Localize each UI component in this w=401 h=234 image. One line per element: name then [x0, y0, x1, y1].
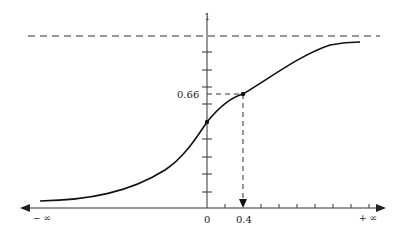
y-top-label: 1 [204, 11, 210, 22]
y-marked-label: 0.66 [177, 89, 199, 100]
sigmoid-diagram: 1 0.66 0 0.4 − ∞ + ∞ [0, 0, 401, 234]
point-origin-0.5 [205, 120, 209, 124]
down-arrow-icon [239, 199, 247, 208]
x-marked-label: 0.4 [236, 214, 252, 225]
sigmoid-curve [40, 42, 360, 201]
x-neg-inf-label: − ∞ [33, 213, 51, 223]
x-axis-ticks [225, 204, 369, 208]
x-zero-label: 0 [204, 214, 210, 225]
point-0.4-0.66 [241, 92, 245, 96]
x-axis-left-arrow-icon [20, 204, 30, 212]
x-axis-right-arrow-icon [376, 204, 386, 212]
x-pos-inf-label: + ∞ [359, 213, 377, 223]
